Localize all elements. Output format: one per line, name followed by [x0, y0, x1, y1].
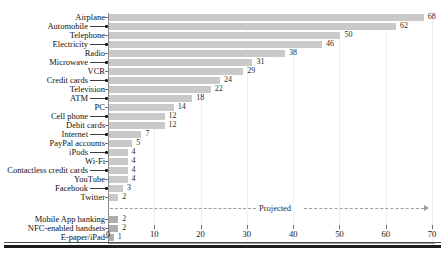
bar-value-label: 12 [169, 120, 177, 129]
label-leader-line [90, 134, 106, 135]
bar-value-label: 12 [169, 111, 177, 120]
label-leader-dot [105, 169, 108, 172]
category-label: PayPal accounts [0, 139, 105, 148]
bar-value-label: 14 [178, 102, 186, 111]
category-label: Debit cards [0, 121, 105, 130]
label-leader-dot [105, 43, 108, 46]
x-axis: 010203040506070 [108, 225, 432, 241]
bar-row: 62 [108, 22, 432, 31]
bar-row: 29 [108, 67, 432, 76]
bar [109, 113, 165, 120]
plot-area: 6862504638312924221814121275444432221 Pr… [108, 13, 432, 244]
bar-value-label: 68 [428, 12, 436, 21]
category-label: Television [0, 85, 105, 94]
bar [109, 122, 165, 129]
footer-rule-thin [4, 242, 441, 243]
label-leader-dot [105, 79, 108, 82]
bar-row: 7 [108, 130, 432, 139]
label-tick-stub [105, 179, 108, 180]
label-tick-stub [105, 35, 108, 36]
bar-row: 2 [108, 193, 432, 202]
x-axis-tick-label: 10 [150, 229, 159, 239]
label-tick-stub [105, 17, 108, 18]
label-leader-line [90, 62, 106, 63]
projected-dash-right [304, 208, 424, 209]
category-label: Twitter [0, 193, 105, 202]
bar-row: 46 [108, 40, 432, 49]
bar [109, 59, 252, 66]
bar [109, 149, 128, 156]
label-leader-dot [105, 97, 108, 100]
label-leader-dot [105, 133, 108, 136]
chart-title [0, 0, 445, 6]
bar [109, 68, 243, 75]
bar [109, 140, 132, 147]
bar [109, 194, 118, 201]
bar [109, 77, 220, 84]
projected-dash-left [110, 208, 256, 209]
label-leader-line [90, 98, 106, 99]
label-leader-line [90, 116, 106, 117]
bar-row: 50 [108, 31, 432, 40]
category-label: Facebook [0, 184, 88, 193]
category-label: iPods [0, 148, 88, 157]
label-tick-stub [105, 219, 108, 220]
bar-value-label: 50 [344, 30, 352, 39]
bar-row: 68 [108, 13, 432, 22]
bar-value-label: 4 [132, 174, 136, 183]
label-leader-dot [105, 25, 108, 28]
bar-value-label: 4 [132, 165, 136, 174]
label-leader-line [90, 170, 106, 171]
label-tick-stub [105, 143, 108, 144]
bar-row: 3 [108, 184, 432, 193]
x-axis-line [108, 243, 435, 244]
bar-row: 22 [108, 85, 432, 94]
label-tick-stub [105, 107, 108, 108]
bar-row: 12 [108, 112, 432, 121]
x-axis-tick-label: 30 [243, 229, 252, 239]
bar [109, 176, 128, 183]
bar-row: 4 [108, 175, 432, 184]
label-leader-line [90, 26, 106, 27]
label-leader-dot [105, 151, 108, 154]
label-leader-line [90, 152, 106, 153]
bar [109, 23, 396, 30]
bar-value-label: 31 [256, 57, 264, 66]
bar-value-label: 62 [400, 21, 408, 30]
bar-row: 4 [108, 166, 432, 175]
bar-row: 24 [108, 76, 432, 85]
category-label: Microwave [0, 58, 88, 67]
bar-value-label: 29 [247, 66, 255, 75]
projected-label: Projected [256, 203, 294, 213]
bar-value-label: 22 [215, 84, 223, 93]
bar-value-label: 3 [127, 183, 131, 192]
bar [109, 86, 211, 93]
bar-value-label: 4 [132, 147, 136, 156]
label-tick-stub [105, 89, 108, 90]
bar [109, 41, 322, 48]
label-tick-stub [105, 71, 108, 72]
bar [109, 14, 424, 21]
bar-value-label: 18 [196, 93, 204, 102]
bar [109, 50, 285, 57]
bar-value-label: 2 [122, 192, 126, 201]
label-leader-line [90, 188, 106, 189]
bar [109, 158, 128, 165]
category-label: E-paper/iPad [0, 233, 105, 242]
label-tick-stub [105, 197, 108, 198]
projected-divider: Projected [108, 204, 432, 214]
bar-row: 12 [108, 121, 432, 130]
label-leader-dot [105, 61, 108, 64]
bar [109, 185, 123, 192]
x-axis-tick-label: 50 [335, 229, 344, 239]
bar-row: 31 [108, 58, 432, 67]
label-tick-stub [105, 125, 108, 126]
footer-rule [4, 245, 441, 248]
bar [109, 95, 192, 102]
bar-value-label: 5 [136, 138, 140, 147]
bar-row: 2 [108, 215, 432, 224]
bar-row: 18 [108, 94, 432, 103]
bar-row: 4 [108, 157, 432, 166]
projected-arrow-icon [424, 205, 429, 211]
label-leader-dot [105, 187, 108, 190]
